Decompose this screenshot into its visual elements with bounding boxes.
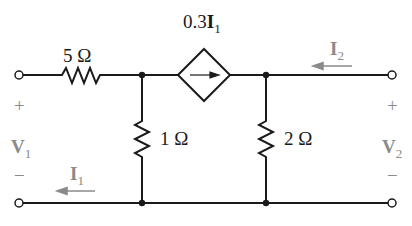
port2-voltage-label: V2: [382, 137, 402, 156]
dependent-source-variable-subscript: 1: [214, 21, 221, 36]
node-dot-top-left: [139, 72, 145, 78]
terminal-port2-top: [388, 71, 396, 79]
port2-voltage-var: V: [382, 136, 396, 157]
dependent-source-coefficient: 0.3: [183, 11, 207, 32]
port2-voltage-subscript: 2: [396, 146, 403, 161]
port2-plus-sign: +: [387, 96, 398, 115]
resistor-2ohm-label: 2 Ω: [284, 129, 312, 148]
port1-voltage-subscript: 1: [25, 146, 32, 161]
current-i2-label: I2: [330, 39, 344, 58]
resistor-5ohm-label: 5 Ω: [63, 46, 91, 65]
current-i2-arrow-head: [313, 63, 323, 70]
resistor-1ohm-symbol: [135, 118, 149, 160]
port1-minus-sign: −: [14, 166, 25, 185]
node-dot-bottom-left: [139, 200, 145, 206]
terminal-port1-bottom: [15, 199, 23, 207]
node-dot-bottom-right: [263, 200, 269, 206]
current-i1-label: I1: [70, 164, 84, 183]
port1-voltage-label: V1: [11, 137, 31, 156]
current-i1-subscript: 1: [77, 173, 84, 188]
resistor-2ohm-symbol: [259, 118, 273, 160]
circuit-schematic: [0, 0, 412, 226]
dependent-source-label: 0.3I1: [183, 12, 221, 31]
port2-minus-sign: −: [387, 166, 398, 185]
resistor-1ohm-label: 1 Ω: [160, 129, 188, 148]
terminal-port1-top: [15, 71, 23, 79]
port1-plus-sign: +: [14, 96, 25, 115]
current-i2-subscript: 2: [337, 48, 344, 63]
terminal-port2-bottom: [388, 199, 396, 207]
current-i1-arrow-head: [57, 188, 67, 195]
source-direction-arrow-head: [210, 72, 219, 78]
node-dot-top-right: [263, 72, 269, 78]
resistor-5ohm-symbol: [58, 68, 104, 83]
port1-voltage-var: V: [11, 136, 25, 157]
